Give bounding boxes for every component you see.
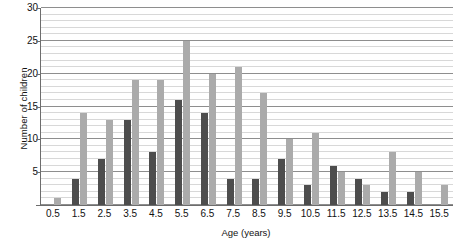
bar: [441, 185, 448, 205]
plot-area: [40, 8, 453, 206]
x-tick-label: 6.5: [195, 208, 221, 224]
bar-group: [350, 8, 376, 205]
bar: [338, 172, 345, 205]
x-tick-label: 13.5: [375, 208, 401, 224]
y-axis-ticks: 51015202530: [0, 0, 40, 245]
bar: [381, 192, 388, 205]
x-tick-label: 15.5: [426, 208, 452, 224]
bar: [260, 93, 267, 205]
x-tick-label: 3.5: [117, 208, 143, 224]
bar: [157, 80, 164, 205]
bar-group: [41, 8, 67, 205]
bar-group: [196, 8, 222, 205]
x-tick-label: 9.5: [272, 208, 298, 224]
bar-group: [170, 8, 196, 205]
x-tick-label: 0.5: [40, 208, 66, 224]
x-tick-label: 5.5: [169, 208, 195, 224]
bar: [201, 113, 208, 205]
x-axis-ticks: 0.51.52.53.54.55.56.57.58.59.510.511.512…: [40, 208, 452, 224]
bar: [355, 179, 362, 205]
bar: [312, 133, 319, 205]
bar-group: [299, 8, 325, 205]
x-tick-label: 2.5: [92, 208, 118, 224]
bar-group: [144, 8, 170, 205]
x-tick-label: 12.5: [349, 208, 375, 224]
x-tick-label: 4.5: [143, 208, 169, 224]
bar-series-container: [41, 8, 453, 205]
bar: [227, 179, 234, 205]
bar: [304, 185, 311, 205]
bar-group: [376, 8, 402, 205]
bar: [124, 120, 131, 205]
x-axis-title: Age (years): [40, 227, 452, 238]
bar: [235, 67, 242, 205]
bar: [389, 152, 396, 205]
bar-group: [221, 8, 247, 205]
bar-group: [93, 8, 119, 205]
x-tick-label: 7.5: [220, 208, 246, 224]
bar: [209, 74, 216, 205]
bar: [363, 185, 370, 205]
bar: [132, 80, 139, 205]
bar-group: [402, 8, 428, 205]
x-tick-label: 1.5: [66, 208, 92, 224]
x-tick-label: 8.5: [246, 208, 272, 224]
bar: [80, 113, 87, 205]
x-tick-label: 11.5: [323, 208, 349, 224]
bar-group: [67, 8, 93, 205]
bar-group: [427, 8, 453, 205]
x-tick-label: 10.5: [298, 208, 324, 224]
histogram-chart: Number of children 51015202530 0.51.52.5…: [0, 0, 458, 245]
bar: [252, 179, 259, 205]
bar: [278, 159, 285, 205]
bar: [407, 192, 414, 205]
bar: [54, 198, 61, 205]
bar: [415, 172, 422, 205]
bar: [106, 120, 113, 205]
x-tick-label: 14.5: [401, 208, 427, 224]
bar: [72, 179, 79, 205]
bar: [175, 100, 182, 205]
bar-group: [247, 8, 273, 205]
bar: [183, 41, 190, 205]
bar-group: [273, 8, 299, 205]
bar: [330, 166, 337, 205]
bar: [98, 159, 105, 205]
bar: [149, 152, 156, 205]
bar-group: [118, 8, 144, 205]
bar: [286, 139, 293, 205]
bar-group: [324, 8, 350, 205]
